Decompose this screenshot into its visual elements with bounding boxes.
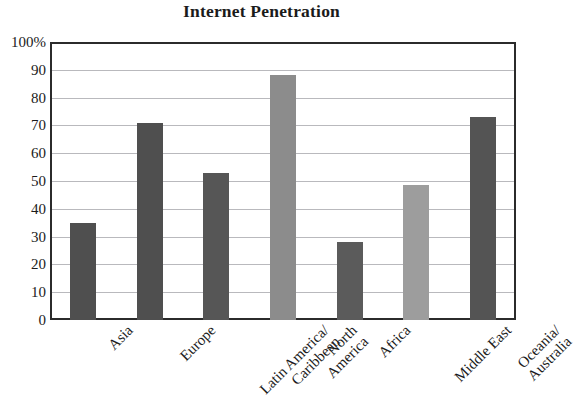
bar[interactable] [403,185,429,320]
y-tick-label: 70 [0,118,46,133]
y-tick-label: 0 [0,313,46,328]
y-tick-label: 80 [0,90,46,105]
x-tick-label: Middle East [451,322,514,385]
bars-group [50,42,516,320]
x-axis: AsiaEuropeLatin America/ CaribbeanNorth … [50,322,516,413]
bar[interactable] [70,223,96,320]
y-tick-label: 60 [0,146,46,161]
bar[interactable] [137,123,163,320]
x-tick-label: Oceania/ Australia [513,322,575,384]
bar[interactable] [337,242,363,320]
y-tick-label: 30 [0,229,46,244]
chart-title: Internet Penetration [0,1,523,22]
x-tick-label: Asia [105,322,136,353]
bar[interactable] [470,117,496,320]
y-tick-label: 50 [0,174,46,189]
bar[interactable] [203,173,229,320]
y-tick-label: 90 [0,62,46,77]
y-tick-label: 100% [0,35,46,50]
y-tick-label: 40 [0,201,46,216]
x-tick-label: Africa [375,322,414,361]
y-tick-label: 10 [0,285,46,300]
x-tick-label: Europe [177,322,219,364]
y-axis: 100%9080706050403020100 [0,42,46,320]
bar[interactable] [270,75,296,320]
y-tick-label: 20 [0,257,46,272]
